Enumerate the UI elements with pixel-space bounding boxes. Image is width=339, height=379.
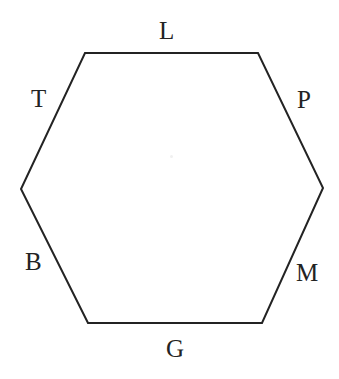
hexagon-outline [21,53,323,323]
hexagon-side-label-lower-right: M [296,260,318,285]
hexagon-shape [0,0,339,379]
hexagon-side-label-upper-left: T [31,86,46,111]
scan-artifact-speck [170,155,173,158]
hexagon-figure: L T P B M G [0,0,339,379]
hexagon-side-label-lower-left: B [25,249,42,274]
hexagon-side-label-top: L [159,18,174,43]
hexagon-side-label-bottom: G [166,336,184,361]
hexagon-side-label-upper-right: P [297,87,311,112]
